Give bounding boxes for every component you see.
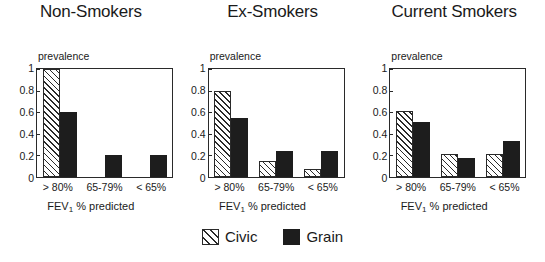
bar-group-65-79 — [88, 69, 122, 177]
y-tick-labels: 1 0.8 0.6 0.4 0.2 0 — [184, 68, 206, 178]
panel-non-smokers: Non-Smokers prevalence 1 0.8 0.6 0.4 0.2… — [0, 0, 182, 220]
bar-group-lt65 — [133, 69, 167, 177]
bar-group-65-79 — [259, 69, 293, 177]
plot-area — [36, 68, 173, 178]
x-axis-title: FEV1 % predicted — [353, 200, 535, 212]
y-tick-label: 0.4 — [19, 128, 34, 140]
panel-title: Non-Smokers — [0, 2, 182, 22]
bar-civic — [304, 169, 321, 177]
bar-civic — [486, 154, 503, 177]
y-axis-label: prevalence — [210, 50, 261, 62]
panel-current-smokers: Current Smokers prevalence 1 0.8 0.6 0.4… — [363, 0, 545, 220]
x-axis-title: FEV1 % predicted — [0, 200, 182, 212]
y-tick-label: 0.2 — [191, 150, 206, 162]
bar-group-gt80 — [43, 69, 77, 177]
bar-group-65-79 — [441, 69, 475, 177]
bar-grain — [150, 155, 167, 177]
y-axis-label: prevalence — [391, 50, 442, 62]
bar-group-lt65 — [486, 69, 520, 177]
y-tick-label: 0 — [200, 172, 206, 184]
x-axis-title-fev: FEV — [47, 200, 68, 212]
x-tick-label: 65-79% — [86, 181, 122, 193]
bar-civic — [43, 69, 60, 177]
y-tick-label: 0.6 — [373, 106, 388, 118]
y-tick-labels: 1 0.8 0.6 0.4 0.2 0 — [12, 68, 34, 178]
y-tick-label: 0.4 — [373, 128, 388, 140]
x-tick-labels: > 80% 65-79% < 65% — [36, 181, 173, 193]
bar-grain — [458, 158, 475, 177]
chart-legend: Civic Grain — [0, 228, 545, 245]
bar-grain — [321, 151, 338, 177]
legend-label-civic: Civic — [225, 228, 258, 245]
bar-grain — [60, 112, 77, 177]
y-tick-label: 0.8 — [191, 84, 206, 96]
bar-grain — [105, 155, 122, 177]
x-axis-title-rest: % predicted — [245, 200, 306, 212]
y-tick-label: 0.8 — [373, 84, 388, 96]
x-tick-label: < 65% — [308, 181, 338, 193]
x-axis-title-rest: % predicted — [73, 200, 134, 212]
x-tick-label: > 80% — [43, 181, 73, 193]
bar-group-container — [390, 69, 525, 177]
x-axis-title-fev: FEV — [219, 200, 240, 212]
bar-civic — [441, 154, 458, 177]
x-axis-title-subscript: 1 — [69, 205, 73, 214]
y-tick-label: 0.2 — [373, 150, 388, 162]
y-tick-label: 0 — [381, 172, 387, 184]
legend-label-grain: Grain — [306, 228, 343, 245]
x-tick-label: > 80% — [214, 181, 244, 193]
x-tick-labels: > 80% 65-79% < 65% — [208, 181, 345, 193]
x-axis-title: FEV1 % predicted — [172, 200, 354, 212]
y-tick-label: 0.6 — [19, 106, 34, 118]
panel-title: Ex-Smokers — [182, 2, 364, 22]
bar-group-gt80 — [214, 69, 248, 177]
legend-item-grain: Grain — [283, 228, 343, 245]
bar-grain — [413, 122, 430, 177]
panel-row: Non-Smokers prevalence 1 0.8 0.6 0.4 0.2… — [0, 0, 545, 220]
panel-title: Current Smokers — [363, 2, 545, 22]
y-tick-label: 1 — [28, 62, 34, 74]
y-tick-labels: 1 0.8 0.6 0.4 0.2 0 — [365, 68, 387, 178]
bar-civic — [259, 161, 276, 177]
y-tick-label: 1 — [200, 62, 206, 74]
y-axis-label: prevalence — [38, 50, 89, 62]
bar-group-gt80 — [396, 69, 430, 177]
y-tick-label: 0.6 — [191, 106, 206, 118]
bar-grain — [276, 151, 293, 177]
x-axis-title-subscript: 1 — [240, 205, 244, 214]
bar-group-lt65 — [304, 69, 338, 177]
x-axis-title-rest: % predicted — [426, 200, 487, 212]
x-tick-label: 65-79% — [440, 181, 476, 193]
y-tick-label: 0.4 — [191, 128, 206, 140]
panel-ex-smokers: Ex-Smokers prevalence 1 0.8 0.6 0.4 0.2 … — [182, 0, 364, 220]
bar-grain — [231, 118, 248, 177]
x-tick-label: > 80% — [396, 181, 426, 193]
x-tick-labels: > 80% 65-79% < 65% — [389, 181, 526, 193]
y-tick-label: 1 — [381, 62, 387, 74]
y-tick-label: 0.2 — [19, 150, 34, 162]
bar-group-container — [37, 69, 172, 177]
x-axis-title-subscript: 1 — [422, 205, 426, 214]
bar-civic — [396, 111, 413, 177]
figure-multipanel-bar-chart: Non-Smokers prevalence 1 0.8 0.6 0.4 0.2… — [0, 0, 545, 262]
legend-swatch-civic-icon — [202, 229, 219, 245]
plot-area — [208, 68, 345, 178]
bar-grain — [503, 141, 520, 177]
legend-swatch-grain-icon — [283, 229, 300, 245]
x-tick-label: < 65% — [489, 181, 519, 193]
x-tick-label: < 65% — [136, 181, 166, 193]
x-axis-title-fev: FEV — [401, 200, 422, 212]
plot-area — [389, 68, 526, 178]
y-tick-label: 0.8 — [19, 84, 34, 96]
bar-group-container — [209, 69, 344, 177]
y-tick-label: 0 — [28, 172, 34, 184]
bar-civic — [214, 91, 231, 177]
legend-item-civic: Civic — [202, 228, 258, 245]
x-tick-label: 65-79% — [258, 181, 294, 193]
